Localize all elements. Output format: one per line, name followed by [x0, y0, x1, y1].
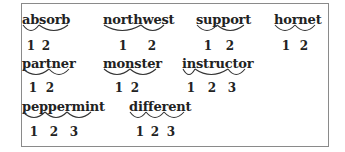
syllable-arcs-icon [129, 111, 187, 121]
syllable-number: 3 [68, 125, 80, 139]
syllable-arcs-icon [103, 24, 167, 34]
syllable-number: 1 [134, 125, 146, 139]
syllable-number: 2 [206, 81, 218, 95]
syllable-number: 2 [224, 39, 236, 53]
syllable-arcs-icon [22, 24, 72, 34]
syllable-number: 1 [28, 125, 40, 139]
syllable-number: 2 [48, 125, 60, 139]
syllable-number: 1 [27, 81, 39, 95]
syllable-arcs-icon [103, 68, 159, 78]
syllable-number: 3 [226, 81, 238, 95]
syllable-number: 2 [149, 125, 161, 139]
syllable-number: 1 [117, 39, 129, 53]
syllable-number: 3 [165, 125, 177, 139]
syllable-number: 2 [40, 39, 52, 53]
syllable-number: 1 [202, 39, 214, 53]
syllable-number: 1 [113, 81, 125, 95]
syllable-number: 2 [146, 39, 158, 53]
syllable-arcs-icon [22, 111, 94, 121]
syllable-number: 1 [25, 39, 37, 53]
syllable-number: 2 [129, 81, 141, 95]
syllable-number: 1 [280, 39, 292, 53]
syllable-arcs-icon [196, 24, 248, 34]
syllable-number: 1 [185, 81, 197, 95]
syllable-arcs-icon [274, 24, 318, 34]
syllable-arcs-icon [22, 68, 72, 78]
syllable-number: 2 [44, 81, 56, 95]
syllable-number: 2 [298, 39, 310, 53]
syllable-arcs-icon [182, 68, 248, 78]
